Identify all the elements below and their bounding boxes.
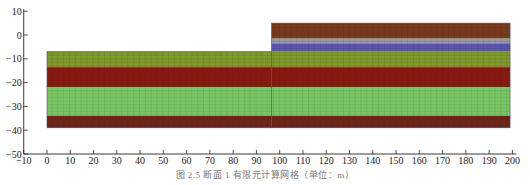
mesh-grid — [47, 67, 272, 87]
x-tick-label: 190 — [482, 155, 497, 166]
x-tick-label: 10 — [65, 155, 75, 166]
mesh-grid — [272, 87, 511, 116]
x-tick-label: 170 — [435, 155, 450, 166]
y-tick-label: 10 — [12, 6, 22, 17]
x-tick-label: 0 — [45, 155, 50, 166]
x-tick-label: 180 — [458, 155, 473, 166]
x-tick-label: 140 — [365, 155, 380, 166]
y-tick-label: −10 — [6, 53, 22, 64]
x-tick-label: 200 — [505, 155, 520, 166]
x-tick-label: 80 — [228, 155, 238, 166]
y-tick-label: −40 — [6, 125, 22, 136]
mesh-grid — [272, 23, 511, 38]
mesh-layers — [47, 23, 510, 128]
mesh-grid — [47, 116, 272, 128]
x-tick-label: −10 — [16, 155, 32, 166]
x-tick-label: 60 — [182, 155, 192, 166]
x-tick-label: 30 — [112, 155, 122, 166]
x-tick-label: 50 — [158, 155, 168, 166]
left-block — [47, 52, 272, 128]
mesh-grid — [272, 67, 511, 87]
x-tick-label: 70 — [205, 155, 215, 166]
mesh-grid — [47, 52, 272, 67]
figure-caption: 图 2.5 断面 1 有限元计算网格（单位：m） — [0, 168, 530, 181]
x-tick-label: 40 — [135, 155, 145, 166]
x-tick-label: 150 — [389, 155, 404, 166]
mesh-grid — [272, 52, 511, 67]
x-tick-label: 120 — [319, 155, 334, 166]
mesh-grid — [272, 43, 511, 51]
mesh-grid — [272, 39, 511, 44]
x-tick-label: 100 — [272, 155, 287, 166]
x-tick-label: 130 — [342, 155, 357, 166]
right-block — [272, 23, 511, 128]
mesh-grid — [272, 116, 511, 128]
y-tick-label: −30 — [6, 101, 22, 112]
x-tick-label: 160 — [412, 155, 427, 166]
mesh-grid — [47, 87, 272, 116]
y-tick-label: 0 — [17, 30, 22, 41]
x-tick-label: 110 — [296, 155, 311, 166]
mesh-figure: 100−10−20−30−40−50−100102030405060708090… — [0, 0, 530, 185]
x-tick-label: 20 — [89, 155, 99, 166]
y-tick-label: −20 — [6, 77, 22, 88]
x-tick-label: 90 — [251, 155, 261, 166]
